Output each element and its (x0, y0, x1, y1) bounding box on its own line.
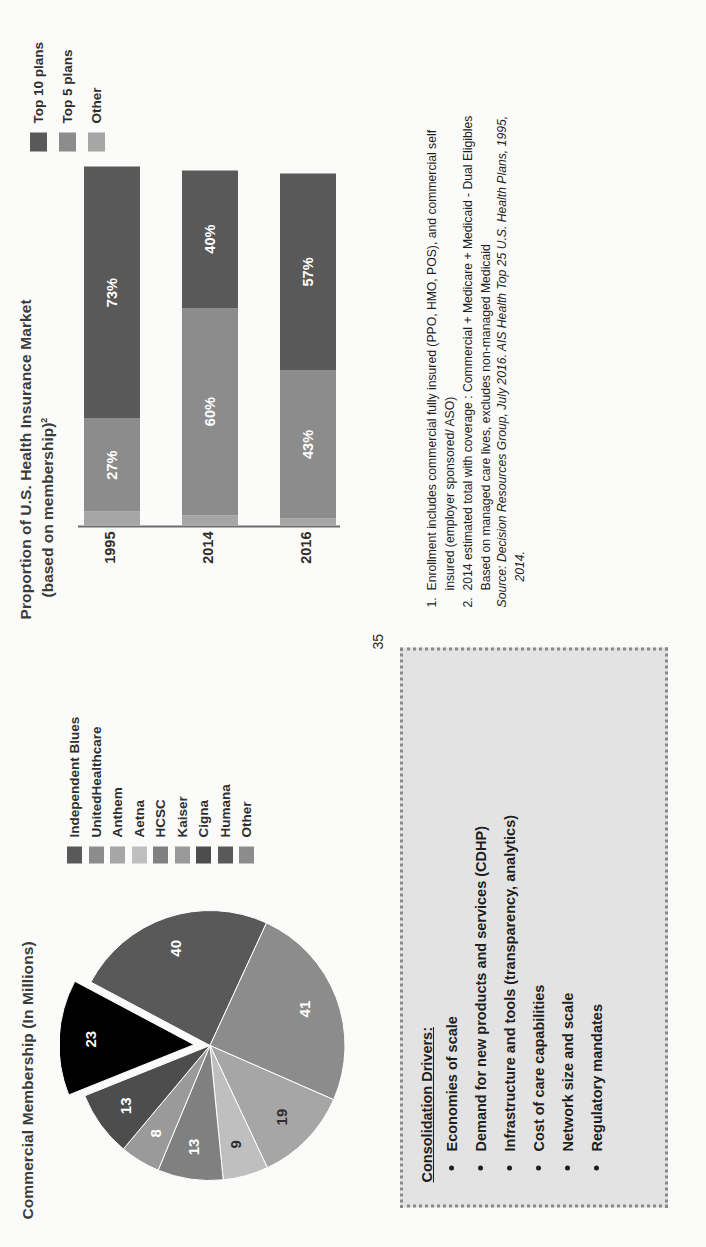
pie-slice-value: 40 (167, 939, 184, 956)
legend-label: HCSC (154, 799, 168, 837)
legend-label: Humana (219, 784, 233, 837)
stacked-bar-chart: 199527%73%201460%40%201643%57% (78, 159, 370, 579)
source-line-2: 2014. (512, 27, 530, 581)
legend-item: HCSC (150, 716, 172, 863)
bar-segment: 27% (84, 418, 140, 511)
bar-segment-value: 40% (202, 224, 218, 253)
pie-slice-value: 23 (82, 1030, 99, 1047)
legend-item: Independent Blues (64, 716, 86, 863)
commercial-membership-panel: Commercial Membership (In Millions) 4041… (16, 633, 376, 1223)
legend-item: Kaiser (172, 716, 194, 863)
legend-label: Top 10 plans (32, 41, 46, 123)
legend-swatch-icon (196, 846, 211, 863)
legend-label: Top 5 plans (61, 49, 75, 123)
list-item-label: Regulatory mandates (590, 1004, 606, 1151)
slide-canvas: Commercial Membership (In Millions) 4041… (0, 0, 706, 1247)
bar-category-label: 1995 (102, 531, 118, 579)
bullet-icon (449, 1165, 454, 1170)
footnote-continuation: Based on managed care lives, excludes no… (478, 27, 495, 590)
legend-swatch-icon (88, 132, 105, 151)
legend-swatch-icon (110, 846, 125, 863)
bar-chart-subtitle: (based on membership)2 (38, 417, 59, 597)
pie-slice-value: 8 (147, 1129, 164, 1137)
bullet-icon (507, 1165, 512, 1170)
list-item: Economies of scale (445, 670, 461, 1184)
footnotes: 1. Enrollment includes commercial fully … (424, 27, 495, 607)
list-item: Regulatory mandates (590, 670, 606, 1184)
legend-label: Cigna (197, 799, 211, 837)
legend-swatch-icon (30, 132, 47, 151)
legend-item: Other (236, 716, 258, 863)
bar-segment: 43% (280, 370, 336, 518)
footnote-item: 2. 2014 estimated total with coverage : … (460, 27, 477, 607)
list-item: Infrastructure and tools (transparency, … (503, 670, 519, 1184)
pie-slice-value: 41 (296, 1000, 313, 1017)
pie-slice-value: 9 (227, 1140, 244, 1148)
legend-label: UnitedHealthcare (90, 726, 104, 837)
pie-slice-value: 19 (273, 1108, 290, 1125)
bar-segment-value: 73% (104, 278, 120, 307)
source-citation: Source: Decision Resources Group, July 2… (494, 27, 529, 607)
legend-swatch-icon (89, 846, 104, 863)
list-item-label: Network size and scale (561, 992, 577, 1151)
legend-label: Aetna (133, 799, 147, 837)
legend-item: Other (82, 41, 111, 151)
bar-stack: 43%57% (280, 173, 336, 525)
list-item-label: Demand for new products and services (CD… (474, 825, 490, 1151)
list-item: Demand for new products and services (CD… (474, 670, 490, 1184)
legend-label: Anthem (111, 787, 125, 837)
pie-chart-title: Commercial Membership (In Millions) (18, 941, 39, 1219)
footnote-item: 1. Enrollment includes commercial fully … (424, 27, 441, 607)
bar-legend: Top 10 plans Top 5 plans Other (24, 41, 111, 151)
bullet-icon (594, 1165, 599, 1170)
bar-category-label: 2014 (200, 531, 216, 579)
bar-segment: 57% (280, 173, 336, 370)
legend-item: Top 5 plans (53, 41, 82, 151)
market-proportion-panel: Proportion of U.S. Health Insurance Mark… (16, 19, 396, 619)
legend-swatch-icon (59, 132, 76, 151)
legend-swatch-icon (175, 846, 190, 863)
list-item-label: Economies of scale (445, 1016, 461, 1151)
legend-swatch-icon (132, 846, 147, 863)
bar-segment-value: 27% (104, 450, 120, 479)
footnote-continuation: insured (employer sponsored/ ASO) (442, 27, 459, 590)
legend-item: UnitedHealthcare (86, 716, 108, 863)
pie-chart: 40411991381323 (60, 875, 360, 1205)
footnote-number: 2. (460, 590, 477, 607)
bar-segment (84, 511, 140, 525)
legend-label: Other (90, 87, 104, 123)
list-item-label: Cost of care capabilities (532, 984, 548, 1151)
list-item: Network size and scale (561, 670, 577, 1184)
bullet-icon (478, 1165, 483, 1170)
list-item-label: Infrastructure and tools (transparency, … (503, 814, 519, 1151)
bar-segment (182, 515, 238, 525)
list-item: Cost of care capabilities (532, 670, 548, 1184)
bar-segment: 73% (84, 166, 140, 418)
legend-label: Kaiser (176, 796, 190, 837)
bar-segment (280, 518, 336, 525)
pie-slice-value: 13 (117, 1097, 134, 1114)
legend-item: Humana (215, 716, 237, 863)
pie-slice-value: 13 (185, 1138, 202, 1155)
legend-item: Cigna (193, 716, 215, 863)
legend-swatch-icon (218, 846, 233, 863)
legend-label: Other (240, 801, 254, 837)
bullet-icon (536, 1165, 541, 1170)
page-number: 35 (370, 633, 386, 649)
legend-item: Anthem (107, 716, 129, 863)
legend-swatch-icon (153, 846, 168, 863)
bar-stack: 60%40% (182, 170, 238, 525)
legend-swatch-icon (67, 846, 82, 863)
bar-segment-value: 60% (202, 397, 218, 426)
legend-label: Independent Blues (68, 716, 82, 837)
consolidation-drivers-box: Consolidation Drivers: Economies of scal… (400, 647, 668, 1207)
bar-stack: 27%73% (84, 166, 140, 525)
bar-chart-subtitle-superscript: 2 (39, 417, 49, 422)
bar-chart-subtitle-text: (based on membership) (39, 422, 56, 597)
footnote-text: 2014 estimated total with coverage : Com… (460, 27, 477, 590)
footnote-text: Enrollment includes commercial fully ins… (424, 27, 441, 590)
bar-segment-value: 43% (300, 429, 316, 458)
footnote-number: 1. (424, 590, 441, 607)
bar-chart-title: Proportion of U.S. Health Insurance Mark… (16, 299, 37, 619)
pie-chart-svg: 40411991381323 (60, 875, 360, 1205)
